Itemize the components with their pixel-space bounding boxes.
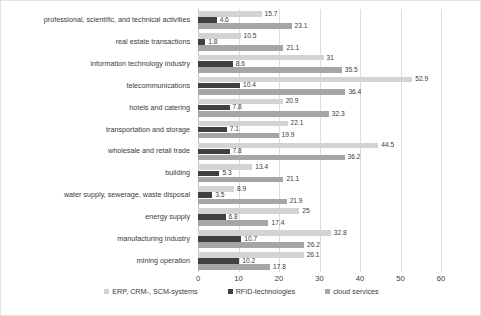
x-tick-label: 60: [437, 274, 445, 283]
bar: [198, 55, 324, 61]
bar-group: 22.17.119.9: [198, 121, 441, 139]
bar: [198, 105, 230, 111]
bar-value-label: 31: [327, 55, 334, 62]
bar-value-label: 52.9: [415, 76, 428, 83]
bar: [198, 127, 227, 133]
bar-group: 13.45.321.1: [198, 164, 441, 182]
legend-swatch: [228, 289, 233, 294]
legend-item[interactable]: cloud services: [325, 287, 379, 296]
bar: [198, 61, 233, 67]
bar-group: 52.910.436.4: [198, 77, 441, 95]
bar-value-label: 32.3: [332, 111, 345, 118]
category-label: transportation and storage: [106, 126, 194, 134]
bar: [198, 23, 292, 29]
bar-value-label: 10.5: [244, 33, 257, 40]
category-axis-labels: professional, scientific, and technical …: [1, 9, 194, 272]
bar: [198, 11, 262, 17]
plot-area: 15.74.623.110.51.821.1318.635.552.910.43…: [198, 9, 441, 272]
category-label: manufacturing industry: [117, 235, 194, 243]
bar: [198, 192, 212, 198]
bar-value-label: 15.7: [265, 11, 278, 18]
bar: [198, 39, 205, 45]
bar: [198, 67, 342, 73]
bar-value-label: 44.5: [381, 142, 394, 149]
bar-value-label: 36.4: [348, 89, 361, 96]
x-tick-label: 40: [356, 274, 364, 283]
bar: [198, 143, 378, 149]
bar: [198, 208, 299, 214]
bar-group: 15.74.623.1: [198, 11, 441, 29]
bar: [198, 199, 287, 205]
x-tick-label: 10: [234, 274, 242, 283]
bar-group: 256.817.4: [198, 208, 441, 226]
bar-group: 44.57.836.2: [198, 143, 441, 161]
bar: [198, 264, 270, 270]
bar: [198, 17, 217, 23]
legend-label: ERP, CRM-, SCM-systems: [112, 287, 197, 296]
bar: [198, 236, 241, 242]
category-label: hotels and catering: [129, 104, 194, 112]
bar-value-label: 8.9: [237, 186, 246, 193]
bar-value-label: 26.1: [307, 252, 320, 259]
bar: [198, 77, 412, 83]
chart-legend: ERP, CRM-, SCM-systemsRFID-technologiesc…: [1, 287, 481, 296]
bar: [198, 33, 241, 39]
bar-group: 20.97.832.3: [198, 99, 441, 117]
x-tick-label: 30: [315, 274, 323, 283]
bar-value-label: 21.9: [290, 198, 303, 205]
bar: [198, 45, 283, 51]
bar-value-label: 17.8: [273, 264, 286, 271]
bar-value-label: 35.5: [345, 67, 358, 74]
bar-value-label: 23.1: [295, 23, 308, 30]
bar-value-label: 22.1: [291, 120, 304, 127]
bar-group: 26.110.217.8: [198, 252, 441, 270]
bar: [198, 89, 345, 95]
bar: [198, 133, 279, 139]
bar-value-label: 13.4: [255, 164, 268, 171]
legend-item[interactable]: RFID-technologies: [228, 287, 296, 296]
bar: [198, 220, 268, 226]
bar: [198, 171, 219, 177]
bar-value-label: 36.2: [348, 154, 361, 161]
category-label: real estate transactions: [116, 38, 194, 46]
bar-value-label: 19.9: [282, 132, 295, 139]
bar-group: 32.810.726.2: [198, 230, 441, 248]
category-label: professional, scientific, and technical …: [44, 16, 194, 24]
bar: [198, 111, 329, 117]
legend-swatch: [104, 289, 109, 294]
bar-group: 8.93.521.9: [198, 186, 441, 204]
category-label: telecommunications: [126, 82, 194, 90]
bar: [198, 149, 230, 155]
category-label: water supply, sewerage, waste disposal: [64, 191, 194, 199]
bar-group: 10.51.821.1: [198, 33, 441, 51]
bar: [198, 230, 331, 236]
legend-label: RFID-technologies: [236, 287, 296, 296]
x-tick-label: 20: [275, 274, 283, 283]
legend-item[interactable]: ERP, CRM-, SCM-systems: [104, 287, 197, 296]
chart-frame: professional, scientific, and technical …: [0, 0, 481, 316]
bar-value-label: 21.1: [286, 45, 299, 52]
bar: [198, 177, 283, 183]
x-tick-label: 50: [396, 274, 404, 283]
bar: [198, 258, 239, 264]
gridline-60: [441, 9, 442, 272]
bar: [198, 214, 226, 220]
bar-value-label: 25: [302, 208, 309, 215]
category-label: wholesale and retail trade: [108, 147, 194, 155]
bar: [198, 155, 345, 161]
grouped-bar-chart: professional, scientific, and technical …: [1, 1, 481, 316]
bar-value-label: 32.8: [334, 230, 347, 237]
x-tick-label: 0: [196, 274, 200, 283]
bar: [198, 121, 288, 127]
category-label: mining operation: [137, 257, 194, 265]
bar: [198, 242, 304, 248]
bar-value-label: 20.9: [286, 98, 299, 105]
category-label: building: [165, 169, 194, 177]
category-label: energy supply: [145, 213, 194, 221]
x-axis-tick-labels: 0102030405060: [198, 272, 441, 286]
bar-group: 318.635.5: [198, 55, 441, 73]
legend-swatch: [325, 289, 330, 294]
bar-value-label: 26.2: [307, 242, 320, 249]
category-label: information technology industry: [91, 60, 194, 68]
legend-label: cloud services: [333, 287, 379, 296]
